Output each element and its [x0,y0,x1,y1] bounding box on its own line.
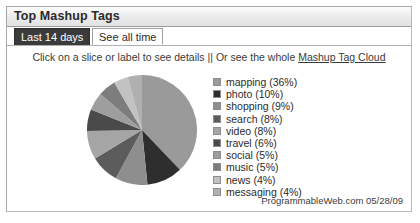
legend-item-label: music (5%) [226,161,279,173]
tab-bar: Last 14 days See all time [7,28,411,46]
hint-instruction: Click on a slice or label to see details… [32,51,298,63]
legend-item-label: travel (6%) [226,137,277,149]
legend-item-label: social (5%) [226,149,278,161]
pie-chart[interactable] [87,75,197,185]
legend-item-label: search (8%) [226,113,283,125]
panel-titlebar: Top Mashup Tags [7,7,411,27]
legend-swatch-icon [213,102,221,110]
legend-item[interactable]: shopping (9%) [213,100,302,112]
tab-see-all-time[interactable]: See all time [92,28,163,45]
pie-legend: mapping (36%)photo (10%)shopping (9%)sea… [213,76,302,198]
legend-item-label: mapping (36%) [226,76,297,88]
mashup-tag-cloud-link[interactable]: Mashup Tag Cloud [298,51,385,63]
legend-item[interactable]: search (8%) [213,113,302,125]
legend-item[interactable]: news (4%) [213,174,302,186]
tab-last-14-days[interactable]: Last 14 days [14,28,90,45]
top-mashup-tags-panel: Top Mashup Tags Last 14 days See all tim… [6,6,412,212]
legend-swatch-icon [213,115,221,123]
legend-swatch-icon [213,78,221,86]
tab-underline-divider [7,45,411,46]
legend-swatch-icon [213,188,221,196]
legend-item[interactable]: social (5%) [213,149,302,161]
chart-area: mapping (36%)photo (10%)shopping (9%)sea… [7,65,411,195]
legend-item[interactable]: photo (10%) [213,88,302,100]
legend-swatch-icon [213,151,221,159]
attribution-footer: ProgrammableWeb.com 05/28/09 [261,195,403,206]
legend-item[interactable]: mapping (36%) [213,76,302,88]
legend-item-label: news (4%) [226,174,276,186]
legend-swatch-icon [213,176,221,184]
legend-item[interactable]: travel (6%) [213,137,302,149]
legend-swatch-icon [213,90,221,98]
legend-swatch-icon [213,163,221,171]
legend-swatch-icon [213,127,221,135]
legend-item-label: photo (10%) [226,88,283,100]
legend-item-label: shopping (9%) [226,100,294,112]
hint-text: Click on a slice or label to see details… [7,51,411,63]
legend-swatch-icon [213,139,221,147]
legend-item-label: video (8%) [226,125,276,137]
page-title: Top Mashup Tags [14,9,120,23]
legend-item[interactable]: video (8%) [213,125,302,137]
legend-item[interactable]: music (5%) [213,161,302,173]
